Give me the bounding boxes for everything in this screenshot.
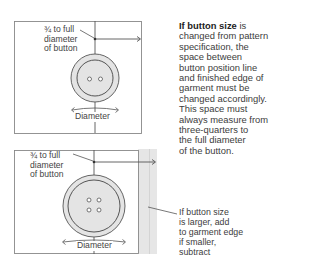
- side-note-line: subtract: [179, 247, 279, 257]
- main-note-line: of the button.: [179, 146, 289, 156]
- top-diameter-label: Diameter: [74, 112, 111, 122]
- side-note: If button size is larger, add to garment…: [179, 207, 279, 257]
- main-note-bold-lead: If button size: [179, 20, 237, 31]
- bottom-diameter-label: Diameter: [76, 241, 113, 251]
- garment-edge-band: [138, 149, 157, 254]
- label-line: of button: [44, 44, 77, 54]
- top-distance-label: ¾ to full diameter of button: [44, 25, 77, 54]
- main-note-first-rest: is: [237, 20, 246, 31]
- side-note-line: to garment edge: [179, 227, 279, 237]
- bottom-distance-label: ¾ to full diameter of button: [30, 151, 63, 180]
- side-note-line: If button size: [179, 207, 279, 217]
- side-note-line: is larger, add: [179, 217, 279, 227]
- main-note: If button size is changed from pattern s…: [179, 21, 289, 156]
- side-note-line: if smaller,: [179, 237, 279, 247]
- label-line: of button: [30, 170, 63, 180]
